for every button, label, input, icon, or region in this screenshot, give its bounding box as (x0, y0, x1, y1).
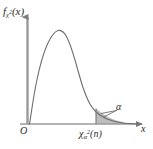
critical-value-label: χα2(n) (79, 129, 102, 141)
chi-square-density-figure: fχ2(x) x O χα2(n) α (0, 0, 153, 149)
tail-area-label: α (116, 102, 121, 112)
y-axis-label: fχ2(x) (3, 6, 24, 19)
critical-value-argument: (n) (90, 128, 102, 139)
origin-label: O (20, 126, 27, 136)
density-curve (30, 30, 142, 124)
y-axis-label-argument: (x) (12, 5, 24, 17)
x-axis-label: x (141, 124, 145, 134)
